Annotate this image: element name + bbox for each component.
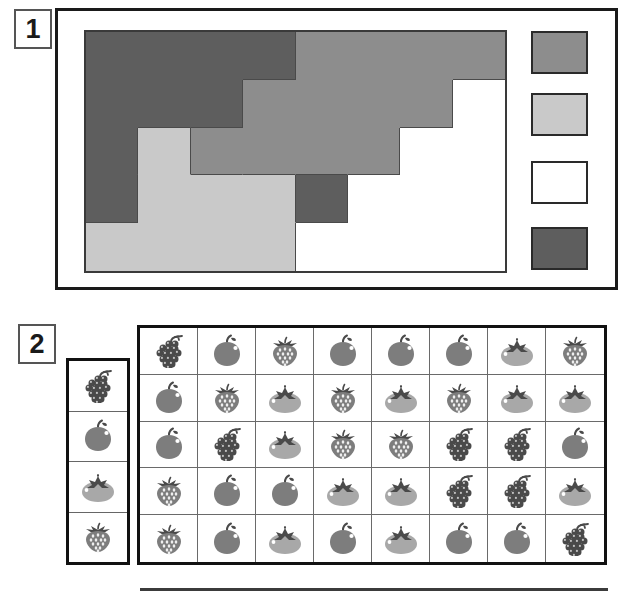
grid-cell[interactable] (243, 175, 295, 223)
grid-cell[interactable] (296, 175, 348, 223)
fruit-grid-cell[interactable] (546, 515, 604, 562)
grid-cell[interactable] (138, 175, 190, 223)
fruit-grid-cell[interactable] (140, 468, 198, 515)
grid-cell[interactable] (348, 175, 400, 223)
fruit-grid-cell[interactable] (314, 515, 372, 562)
fruit-grid-cell[interactable] (546, 328, 604, 375)
grid-cell[interactable] (296, 32, 348, 80)
fruit-grid-cell[interactable] (256, 468, 314, 515)
fruit-grid-cell[interactable] (198, 328, 256, 375)
grid-cell[interactable] (296, 80, 348, 128)
shaded-grid[interactable] (84, 30, 507, 273)
legend-swatch-medium-gray[interactable] (531, 31, 588, 74)
grid-cell[interactable] (296, 128, 348, 176)
grid-cell[interactable] (138, 223, 190, 271)
fruit-grid-cell[interactable] (314, 468, 372, 515)
fruit-grid-cell[interactable] (198, 375, 256, 422)
grid-cell[interactable] (138, 80, 190, 128)
grid-cell[interactable] (191, 175, 243, 223)
fruit-grid-cell[interactable] (256, 328, 314, 375)
grid-cell[interactable] (400, 223, 452, 271)
grid-cell[interactable] (453, 223, 505, 271)
grid-cell[interactable] (86, 175, 138, 223)
grid-cell[interactable] (138, 32, 190, 80)
legend-swatch-white[interactable] (531, 161, 588, 204)
grid-cell[interactable] (243, 223, 295, 271)
fruit-grid-cell[interactable] (430, 375, 488, 422)
grid-cell[interactable] (348, 128, 400, 176)
persimmon-icon (381, 381, 421, 415)
fruit-grid-cell[interactable] (140, 515, 198, 562)
fruit-grid-cell[interactable] (140, 422, 198, 469)
fruit-grid-cell[interactable] (372, 515, 430, 562)
grid-cell[interactable] (400, 32, 452, 80)
fruit-grid-cell[interactable] (430, 515, 488, 562)
fruit-grid-cell[interactable] (488, 422, 546, 469)
grid-cell[interactable] (453, 128, 505, 176)
grid-cell[interactable] (138, 128, 190, 176)
grapes-icon (207, 427, 247, 461)
grid-cell[interactable] (86, 32, 138, 80)
grid-cell[interactable] (400, 128, 452, 176)
fruit-grid-cell[interactable] (488, 515, 546, 562)
fruit-grid-cell[interactable] (488, 328, 546, 375)
fruit-key-item[interactable] (69, 412, 127, 463)
persimmon-icon (497, 381, 537, 415)
fruit-grid-cell[interactable] (430, 468, 488, 515)
fruit-grid-cell[interactable] (198, 468, 256, 515)
fruit-grid-cell[interactable] (198, 422, 256, 469)
fruit-grid-cell[interactable] (314, 422, 372, 469)
fruit-grid[interactable] (137, 325, 607, 565)
worksheet-page: 1 2 (0, 0, 625, 601)
fruit-grid-cell[interactable] (372, 422, 430, 469)
grid-cell[interactable] (243, 32, 295, 80)
fruit-key-item[interactable] (69, 462, 127, 513)
grid-cell[interactable] (86, 80, 138, 128)
fruit-grid-cell[interactable] (430, 422, 488, 469)
grid-cell[interactable] (191, 80, 243, 128)
fruit-grid-cell[interactable] (430, 328, 488, 375)
grid-cell[interactable] (348, 223, 400, 271)
grid-cell[interactable] (191, 223, 243, 271)
fruit-grid-cell[interactable] (488, 468, 546, 515)
fruit-grid-cell[interactable] (372, 468, 430, 515)
persimmon-icon (265, 522, 305, 556)
grid-cell[interactable] (400, 175, 452, 223)
fruit-key-item[interactable] (69, 361, 127, 412)
grid-cell[interactable] (400, 80, 452, 128)
strawberry-icon (555, 334, 595, 368)
grid-cell[interactable] (348, 32, 400, 80)
grid-cell[interactable] (191, 32, 243, 80)
fruit-grid-cell[interactable] (546, 422, 604, 469)
grid-cell[interactable] (243, 80, 295, 128)
grid-cell[interactable] (453, 175, 505, 223)
fruit-grid-cell[interactable] (488, 375, 546, 422)
fruit-grid-cell[interactable] (546, 468, 604, 515)
grid-cell[interactable] (243, 128, 295, 176)
grid-cell[interactable] (86, 128, 138, 176)
legend-swatch-light-gray[interactable] (531, 93, 588, 136)
grid-cell[interactable] (296, 223, 348, 271)
fruit-grid-cell[interactable] (198, 515, 256, 562)
fruit-key-item[interactable] (69, 513, 127, 563)
strawberry-icon (265, 334, 305, 368)
fruit-grid-cell[interactable] (140, 375, 198, 422)
strawberry-icon (439, 381, 479, 415)
grid-cell[interactable] (453, 80, 505, 128)
fruit-grid-cell[interactable] (256, 422, 314, 469)
fruit-grid-cell[interactable] (256, 375, 314, 422)
fruit-grid-cell[interactable] (372, 375, 430, 422)
fruit-grid-cell[interactable] (140, 328, 198, 375)
fruit-grid-cell[interactable] (314, 328, 372, 375)
grid-cell[interactable] (86, 223, 138, 271)
fruit-grid-cell[interactable] (314, 375, 372, 422)
fruit-grid-cell[interactable] (256, 515, 314, 562)
strawberry-icon (323, 381, 363, 415)
fruit-grid-cell[interactable] (546, 375, 604, 422)
grid-cell[interactable] (191, 128, 243, 176)
grid-cell[interactable] (453, 32, 505, 80)
grid-cell[interactable] (348, 80, 400, 128)
persimmon-icon (555, 381, 595, 415)
legend-swatch-dark-gray[interactable] (531, 227, 588, 270)
fruit-grid-cell[interactable] (372, 328, 430, 375)
